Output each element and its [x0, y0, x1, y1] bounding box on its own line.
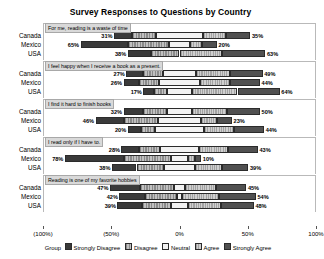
row-right-value: 44% — [266, 126, 277, 135]
chart-row: Mexico46%23% — [0, 116, 321, 125]
row-left-value: 38% — [99, 164, 110, 173]
bar-segment-strongly-agree — [222, 164, 248, 170]
row-plot: 46%23% — [43, 116, 316, 125]
bar-segment-agree — [199, 146, 228, 152]
axis-tick — [248, 226, 249, 229]
panel-rows: Canada27%49%Mexico26%44%USA17%64% — [0, 69, 321, 96]
axis-tick-label: 100% — [308, 230, 323, 238]
row-right-value: 64% — [281, 88, 292, 97]
bar-segment-disagree — [141, 126, 155, 132]
row-label-canada: Canada — [0, 69, 41, 78]
legend-label: Agree — [203, 245, 219, 251]
bar-segment-strongly-disagree — [128, 50, 151, 56]
bar-segment-strongly-agree — [230, 79, 260, 85]
legend-item[interactable]: Disagree — [125, 245, 157, 251]
bar-segment-strongly-disagree — [124, 108, 143, 114]
bar-segment-disagree — [140, 184, 174, 190]
chart-row: USA20%44% — [0, 125, 321, 134]
x-axis: (100%)(50%)0%50%100% — [43, 226, 316, 242]
stacked-bar: 39%48% — [43, 202, 316, 208]
bar-segment-neutral — [160, 146, 200, 152]
panel-rows: Canada31%35%Mexico65%20%USA38%63% — [0, 31, 321, 58]
stacked-bar: 28%43% — [43, 146, 316, 152]
bar-segment-agree — [192, 88, 237, 94]
row-plot: 39%48% — [43, 201, 316, 210]
bar-segment-agree — [185, 184, 216, 190]
bar-segment-strongly-disagree — [110, 184, 140, 190]
row-plot: 78%10% — [43, 154, 316, 163]
bar-segment-agree — [180, 50, 222, 56]
bar-segment-agree — [192, 108, 227, 114]
bar-segment-strongly-disagree — [114, 32, 132, 38]
row-left-value: 20% — [115, 126, 126, 135]
stacked-bar: 78%10% — [43, 155, 316, 161]
bar-segment-disagree — [137, 164, 164, 170]
panel-rows: Canada47%45%Mexico42%54%USA39%48% — [0, 183, 321, 210]
bar-segment-neutral — [171, 155, 187, 161]
stacked-bar: 31%35% — [43, 32, 316, 38]
legend-item[interactable]: Agree — [195, 245, 219, 251]
bar-segment-neutral — [169, 41, 189, 47]
row-left-value: 39% — [105, 202, 116, 211]
chart-title: Survey Responses to Questions by Country — [0, 7, 321, 17]
axis-tick-label: (100%) — [33, 230, 52, 238]
legend-swatch-icon — [162, 243, 169, 250]
axis-tick — [43, 226, 44, 229]
stacked-bar: 26%44% — [43, 79, 316, 85]
row-plot: 38%63% — [43, 49, 316, 58]
axis-tick-label: 0% — [175, 230, 184, 238]
chart-row: Mexico78%10% — [0, 154, 321, 163]
chart-row: USA17%64% — [0, 87, 321, 96]
bar-segment-agree — [203, 32, 226, 38]
bar-segment-strongly-disagree — [143, 88, 154, 94]
legend-title: Group — [45, 245, 61, 251]
chart-row: Mexico42%54% — [0, 192, 321, 201]
row-label-mexico: Mexico — [0, 154, 41, 163]
row-plot: 17%64% — [43, 87, 316, 96]
axis-tick — [111, 226, 112, 229]
row-plot: 38%39% — [43, 163, 316, 172]
panel-title: I find it hard to finish books — [45, 99, 114, 109]
axis-tick-label: (50%) — [103, 230, 119, 238]
bar-segment-strongly-disagree — [65, 155, 124, 161]
stacked-bar: 20%44% — [43, 126, 316, 132]
chart-panel: For me, reading is a waste of timeCanada… — [0, 23, 321, 60]
bar-segment-agree — [195, 164, 222, 170]
bar-segment-strongly-agree — [234, 126, 264, 132]
stacked-bar: 42%54% — [43, 193, 316, 199]
legend-item[interactable]: Neutral — [162, 245, 190, 251]
row-label-canada: Canada — [0, 145, 41, 154]
bar-segment-strongly-agree — [238, 88, 280, 94]
stacked-bar: 32%50% — [43, 108, 316, 114]
bar-segment-neutral — [174, 184, 185, 190]
bar-segment-disagree — [124, 117, 158, 123]
panel-title: I feel happy when I receive a book as a … — [45, 61, 163, 71]
bar-segment-strongly-disagree — [124, 79, 139, 85]
bar-segment-strongly-agree — [217, 117, 232, 123]
legend-item[interactable]: Strongly Agree — [224, 245, 271, 251]
legend-item[interactable]: Strongly Disagree — [65, 245, 120, 251]
row-label-canada: Canada — [0, 107, 41, 116]
legend-label: Strongly Disagree — [74, 245, 121, 251]
bar-segment-strongly-agree — [230, 70, 263, 76]
row-label-usa: USA — [0, 49, 41, 58]
bar-segment-agree — [188, 155, 195, 161]
bar-segment-strongly-disagree — [96, 117, 125, 123]
bar-segment-strongly-agree — [222, 50, 266, 56]
row-label-mexico: Mexico — [0, 116, 41, 125]
bar-segment-disagree — [139, 79, 159, 85]
bar-segment-strongly-agree — [195, 155, 202, 161]
bar-segment-agree — [196, 70, 230, 76]
panel-rows: Canada32%50%Mexico46%23%USA20%44% — [0, 107, 321, 134]
bar-segment-disagree — [151, 50, 180, 56]
chart-panel: Reading is one of my favorite hobbiesCan… — [0, 175, 321, 212]
bar-segment-agree — [204, 126, 234, 132]
stacked-bar: 38%63% — [43, 50, 316, 56]
bar-segment-agree — [201, 117, 217, 123]
row-plot: 42%54% — [43, 192, 316, 201]
chart-row: USA39%48% — [0, 201, 321, 210]
legend-label: Neutral — [171, 245, 190, 251]
axis-tick — [316, 226, 317, 229]
bar-segment-agree — [190, 41, 202, 47]
bar-segment-disagree — [142, 202, 171, 208]
